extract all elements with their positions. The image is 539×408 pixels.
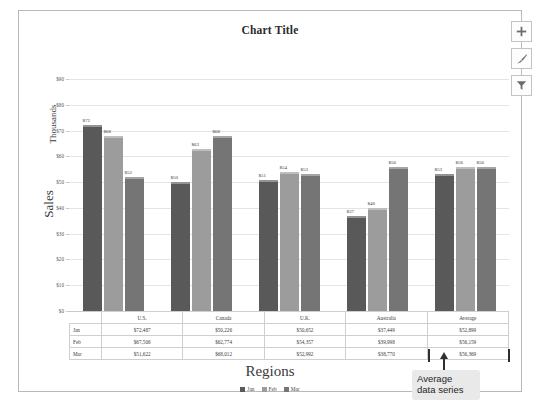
table-cell: $38,770 (346, 348, 427, 360)
legend-swatch-icon (240, 387, 245, 392)
table-cell: $37,449 (346, 324, 427, 336)
bar-data-label: $63 (192, 142, 200, 147)
bar-jan[interactable]: $51 (259, 180, 278, 311)
bar-data-label: $72 (83, 118, 91, 123)
y-axis-tick-label: $30 (56, 231, 64, 237)
bar-data-label: $68 (104, 129, 112, 134)
cell-highlight-bracket (428, 349, 430, 362)
table-row: Jan$72,487$50,226$50,652$37,449$52,899 (70, 324, 509, 336)
table-cell: $52,992 (264, 348, 345, 360)
chart-title[interactable]: Chart Title (19, 24, 521, 36)
bar-wrapper: $54 (280, 79, 299, 311)
bar-feb[interactable]: $54 (280, 172, 299, 311)
y-axis-secondary-title: Thousands (48, 84, 58, 164)
table-cell: $72,487 (102, 324, 183, 336)
table-row-header: Jan (70, 324, 102, 336)
y-axis-tick-label: $0 (59, 308, 64, 314)
bar-data-label: $56 (456, 160, 464, 165)
bar-groups: $72$68$52$50$63$68$51$54$53$37$40$56$53$… (69, 79, 509, 311)
legend-item-jan[interactable]: Jan (240, 386, 254, 392)
bar-mar[interactable]: $68 (213, 136, 232, 311)
bar-data-label: $53 (301, 167, 309, 172)
bar-jan[interactable]: $53 (435, 174, 454, 311)
bar-wrapper: $40 (368, 79, 387, 311)
plot-area[interactable]: $90$80$70$60$50$40$30$20$10$0 $72$68$52$… (69, 79, 509, 311)
bar-group-australia: $37$40$56 (333, 79, 421, 311)
table-column-header: Average (427, 312, 508, 324)
y-axis-tick-label: $70 (56, 128, 64, 134)
bar-jan[interactable]: $50 (171, 182, 190, 311)
callout-line-2: data series (417, 385, 475, 396)
table-row-header: Feb (70, 336, 102, 348)
bar-wrapper: $51 (259, 79, 278, 311)
legend-item-mar[interactable]: Mar (284, 386, 300, 392)
bar-data-label: $53 (435, 167, 443, 172)
bar-data-label: $40 (368, 201, 376, 206)
bar-data-label: $56 (389, 160, 397, 165)
bar-wrapper: $53 (435, 79, 454, 311)
bar-wrapper: $68 (104, 79, 123, 311)
bar-feb[interactable]: $63 (192, 149, 211, 311)
table-cell: $39,998 (346, 336, 427, 348)
y-axis-title[interactable]: Sales (41, 164, 57, 244)
bar-mar[interactable]: $56 (477, 167, 496, 311)
table-column-header: Australia (346, 312, 427, 324)
bar-data-label: $68 (213, 129, 221, 134)
table-cell: $54,357 (264, 336, 345, 348)
table-header-row: U.S.CanadaU.K.AustraliaAverage (70, 312, 509, 324)
legend-item-feb[interactable]: Feb (262, 386, 277, 392)
chart-screenshot: Chart Title (0, 0, 539, 408)
y-axis-tick-label: $60 (56, 153, 64, 159)
legend-label: Mar (291, 386, 300, 392)
chart-elements-button[interactable] (511, 21, 532, 42)
bar-data-label: $52 (125, 170, 133, 175)
bar-wrapper: $72 (83, 79, 102, 311)
table-cell: $67,506 (102, 336, 183, 348)
legend-swatch-icon (262, 387, 267, 392)
table-corner-cell (70, 312, 102, 324)
table-column-header: U.K. (264, 312, 345, 324)
bar-data-label: $37 (347, 209, 355, 214)
bar-wrapper: $56 (456, 79, 475, 311)
legend-label: Feb (269, 386, 277, 392)
plus-icon (516, 26, 527, 37)
table-column-header: U.S. (102, 312, 183, 324)
average-data-series-callout[interactable]: Average data series (412, 370, 480, 400)
table-row: Feb$67,506$62,774$54,357$39,998$56,159 (70, 336, 509, 348)
bar-mar[interactable]: $52 (125, 177, 144, 311)
bar-group-us: $72$68$52 (69, 79, 157, 311)
bar-wrapper: $56 (477, 79, 496, 311)
bar-data-label: $51 (259, 173, 267, 178)
bar-jan[interactable]: $37 (347, 216, 366, 311)
table-cell: $52,899 (427, 324, 508, 336)
table-cell: $68,012 (183, 348, 264, 360)
table-column-header: Canada (183, 312, 264, 324)
bar-feb[interactable]: $56 (456, 167, 475, 311)
bar-jan[interactable]: $72 (83, 125, 102, 311)
bar-wrapper: $53 (301, 79, 320, 311)
chart-filters-button[interactable] (511, 75, 532, 96)
y-axis-tick-label: $90 (56, 76, 64, 82)
bar-wrapper: $63 (192, 79, 211, 311)
chart-styles-button[interactable] (511, 48, 532, 69)
bar-mar[interactable]: $56 (389, 167, 408, 311)
bar-wrapper: $50 (171, 79, 190, 311)
legend-label: Jan (247, 386, 254, 392)
chart-frame[interactable]: Chart Title (18, 10, 522, 392)
y-axis-tick-label: $50 (56, 179, 64, 185)
bar-wrapper: $37 (347, 79, 366, 311)
bar-group-uk: $51$54$53 (245, 79, 333, 311)
table-cell: $50,652 (264, 324, 345, 336)
table-cell: $56,159 (427, 336, 508, 348)
bar-feb[interactable]: $68 (104, 136, 123, 311)
bar-group-canada: $50$63$68 (157, 79, 245, 311)
y-axis-tick-label: $20 (56, 256, 64, 262)
bar-wrapper: $56 (389, 79, 408, 311)
bar-wrapper: $68 (213, 79, 232, 311)
bar-mar[interactable]: $53 (301, 174, 320, 311)
y-axis-tick-label: $10 (56, 282, 64, 288)
filter-icon (516, 80, 527, 91)
table-cell: $50,226 (183, 324, 264, 336)
bar-feb[interactable]: $40 (368, 208, 387, 311)
brush-icon (516, 53, 528, 65)
